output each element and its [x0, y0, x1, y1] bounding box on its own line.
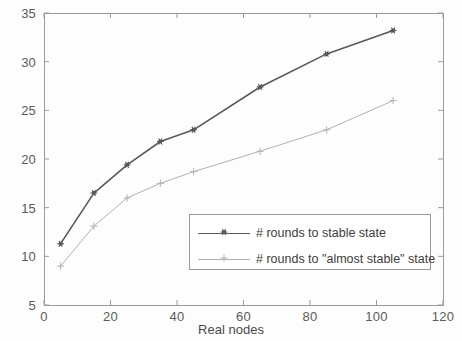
y-tick-label: 15 — [4, 200, 36, 215]
y-tick-label: 30 — [4, 54, 36, 69]
legend-item-stable: # rounds to stable state — [198, 224, 386, 242]
y-tick-label: 25 — [4, 103, 36, 118]
y-tick-label: 5 — [4, 298, 36, 313]
legend-label-almost-stable: # rounds to "almost stable" state — [256, 252, 435, 266]
legend-swatch-stable — [198, 226, 250, 240]
y-tick-label: 35 — [4, 6, 36, 21]
legend-label-stable: # rounds to stable state — [256, 226, 386, 240]
chart-plot-area — [0, 0, 462, 341]
y-tick-label: 20 — [4, 152, 36, 167]
plus-marker — [218, 250, 230, 268]
figure: 5101520253035020406080100120 Real nodes … — [0, 0, 462, 341]
legend-item-almost-stable: # rounds to "almost stable" state — [198, 250, 435, 268]
chart-legend: # rounds to stable state # rounds to "al… — [189, 214, 431, 270]
x-axis-label: Real nodes — [0, 322, 462, 337]
asterisk-marker — [218, 224, 230, 242]
y-tick-label: 10 — [4, 249, 36, 264]
legend-swatch-almost-stable — [198, 252, 250, 266]
